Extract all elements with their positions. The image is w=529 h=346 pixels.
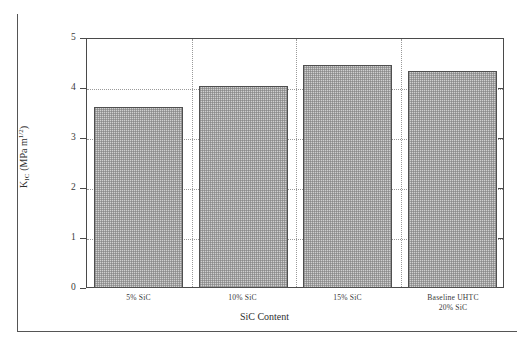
y-axis-title-unit-close: ) (18, 126, 29, 129)
gridline-x-1 (192, 39, 193, 287)
xtick-label-line-1: 15% SiC (295, 293, 400, 303)
ytick-mark-1 (80, 238, 86, 239)
plot-area (86, 38, 504, 288)
gridline-y-1 (87, 239, 503, 240)
xtick-label-15pct-sic: 15% SiC (295, 293, 400, 303)
ytick-label-4: 4 (52, 82, 76, 92)
xtick-label-baseline-uhtc: Baseline UHTC 20% SiC (399, 293, 507, 312)
xtick-label-10pct-sic: 10% SiC (190, 293, 295, 303)
ytick-mark-right-3 (498, 138, 504, 139)
ytick-mark-0 (80, 288, 86, 289)
x-axis-title: SiC Content (0, 311, 529, 322)
gridline-x-3 (401, 39, 402, 287)
ytick-mark-4 (80, 88, 86, 89)
gridline-x-2 (296, 39, 297, 287)
ytick-label-1: 1 (52, 232, 76, 242)
y-axis-title-symbol: K (18, 181, 29, 188)
xtick-label-line-1: 10% SiC (190, 293, 295, 303)
ytick-label-2: 2 (52, 182, 76, 192)
xtick-label-line-1: Baseline UHTC (399, 293, 507, 303)
xtick-label-line-1: 5% SiC (86, 293, 191, 303)
ytick-mark-right-1 (498, 238, 504, 239)
gridline-y-4 (87, 89, 503, 90)
ytick-label-3: 3 (52, 132, 76, 142)
ytick-mark-right-2 (498, 188, 504, 189)
xtick-label-5pct-sic: 5% SiC (86, 293, 191, 303)
bar-chart: 0 1 2 3 4 5 KIC (MPa m1/2) 5% SiC 10% Si… (0, 0, 529, 346)
ytick-mark-right-4 (498, 88, 504, 89)
y-axis-title: KIC (MPa m1/2) (17, 97, 31, 217)
ytick-mark-5 (80, 38, 86, 39)
y-axis-title-subscript: IC (23, 173, 31, 181)
ytick-label-5: 5 (52, 32, 76, 42)
y-axis-title-superscript: 1/2 (17, 129, 25, 138)
gridline-y-3 (87, 139, 503, 140)
y-axis-title-unit-open: (MPa m (18, 138, 29, 173)
ytick-label-0: 0 (52, 282, 76, 292)
ytick-mark-3 (80, 138, 86, 139)
gridline-y-2 (87, 189, 503, 190)
ytick-mark-2 (80, 188, 86, 189)
